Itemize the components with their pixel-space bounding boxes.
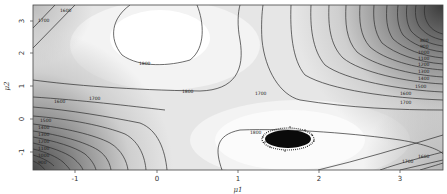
y-tick-label: 2 bbox=[18, 51, 26, 55]
svg-text:1700: 1700 bbox=[255, 91, 267, 96]
svg-text:1200: 1200 bbox=[418, 62, 430, 67]
x-axis bbox=[75, 170, 400, 173]
x-tick-label: 2 bbox=[317, 175, 321, 183]
y-tick-labels: 3 2 1 0 -1 bbox=[18, 19, 26, 156]
svg-text:1200: 1200 bbox=[38, 139, 50, 144]
svg-text:1500: 1500 bbox=[40, 118, 52, 123]
svg-text:1400: 1400 bbox=[418, 76, 430, 81]
svg-text:900: 900 bbox=[38, 160, 47, 165]
svg-text:1600: 1600 bbox=[400, 91, 412, 96]
svg-text:1400: 1400 bbox=[38, 125, 50, 130]
svg-text:1000: 1000 bbox=[418, 50, 430, 55]
svg-text:1600: 1600 bbox=[418, 154, 430, 159]
y-axis bbox=[30, 21, 33, 152]
svg-text:1800: 1800 bbox=[139, 61, 151, 66]
plot-area: 1800 1800 1800 1700 1700 1700 1600 1600 … bbox=[33, 0, 443, 180]
svg-text:800: 800 bbox=[420, 38, 429, 43]
svg-text:1600: 1600 bbox=[54, 99, 66, 104]
x-tick-labels: -1 0 1 2 3 bbox=[72, 175, 403, 183]
svg-text:1800: 1800 bbox=[250, 130, 262, 135]
svg-text:1700: 1700 bbox=[38, 18, 50, 23]
svg-text:1700: 1700 bbox=[400, 100, 412, 105]
y-tick-label: -1 bbox=[18, 149, 26, 156]
x-tick-label: 1 bbox=[236, 175, 240, 183]
x-tick-label: -1 bbox=[72, 175, 79, 183]
svg-text:1100: 1100 bbox=[418, 56, 430, 61]
svg-text:1700: 1700 bbox=[89, 96, 101, 101]
svg-text:1700: 1700 bbox=[402, 159, 414, 164]
svg-text:1000: 1000 bbox=[38, 153, 50, 158]
x-tick-label: 3 bbox=[398, 175, 402, 183]
y-tick-label: 0 bbox=[18, 117, 26, 121]
y-tick-label: 3 bbox=[18, 19, 26, 23]
contour-plot: 1800 1800 1800 1700 1700 1700 1600 1600 … bbox=[0, 0, 447, 194]
svg-text:1300: 1300 bbox=[38, 132, 50, 137]
svg-text:1300: 1300 bbox=[418, 69, 430, 74]
svg-text:900: 900 bbox=[420, 44, 429, 49]
svg-text:1500: 1500 bbox=[415, 84, 427, 89]
svg-text:1800: 1800 bbox=[182, 89, 194, 94]
x-axis-label: μ1 bbox=[233, 186, 242, 194]
y-tick-label: 1 bbox=[18, 84, 26, 88]
x-tick-label: 0 bbox=[155, 175, 159, 183]
y-axis-label: μ2 bbox=[3, 81, 11, 91]
svg-text:1100: 1100 bbox=[38, 146, 50, 151]
svg-text:1600: 1600 bbox=[60, 8, 72, 13]
